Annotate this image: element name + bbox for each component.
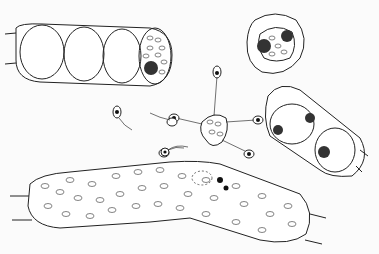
filament-upper-left [5,24,172,86]
illustration-svg [0,0,379,254]
algae-illustration [0,0,379,254]
dividing-cell-right [265,86,368,176]
isolated-cell-top-right [247,14,304,73]
zoospore-cluster-center [169,66,263,158]
filament-bottom [10,146,326,244]
